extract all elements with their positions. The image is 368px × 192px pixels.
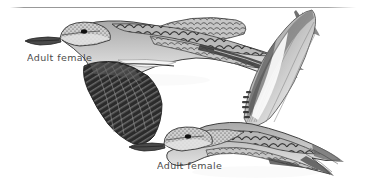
caption-upper-bird: Adult female — [27, 52, 92, 63]
lower-bird-figure — [129, 10, 344, 176]
lower-bird-far-wingtip — [294, 10, 310, 32]
upper-bird-near-wing — [84, 62, 163, 145]
lower-bird-bill — [129, 143, 165, 151]
upper-bird-eye — [81, 29, 87, 33]
lower-bird-eye — [185, 134, 191, 138]
upper-bird-figure — [25, 18, 304, 145]
caption-lower-bird: Adult female — [157, 160, 222, 171]
upper-bird-bill — [25, 37, 61, 45]
lower-bird-raised-wing — [244, 10, 316, 126]
top-divider-rule — [10, 7, 356, 8]
illustration-plate: Adult female Adult female — [0, 0, 368, 192]
